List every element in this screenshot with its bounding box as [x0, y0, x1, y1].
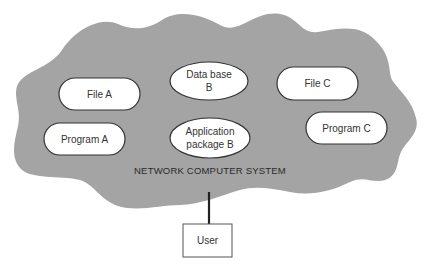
application-package-b-label-line2: package B [186, 139, 234, 150]
resource-program-c: Program C [306, 112, 387, 144]
database-b-label-line1: Data base [186, 69, 232, 80]
network-computer-system-diagram: File A Data base B File C Program A Appl… [0, 0, 435, 271]
network-cloud [14, 14, 417, 209]
resource-database-b: Data base B [170, 62, 248, 100]
resource-program-a: Program A [44, 123, 125, 155]
file-c-label: File C [304, 78, 330, 89]
resource-file-c: File C [277, 67, 358, 100]
program-c-label: Program C [322, 123, 370, 134]
resource-file-a: File A [59, 78, 140, 110]
program-a-label: Program A [61, 134, 109, 145]
user-node: User [183, 224, 232, 257]
network-computer-system-label: NETWORK COMPUTER SYSTEM [134, 165, 286, 176]
database-b-label-line2: B [206, 82, 213, 93]
user-label: User [197, 235, 219, 246]
application-package-b-label-line1: Application [186, 126, 235, 137]
file-a-label: File A [87, 89, 112, 100]
resource-application-package-b: Application package B [170, 118, 250, 158]
